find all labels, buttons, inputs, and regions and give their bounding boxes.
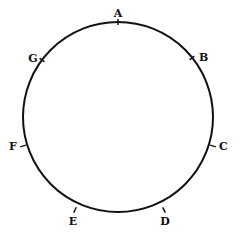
point-tick-c	[210, 145, 216, 147]
point-label-f: F	[9, 140, 17, 153]
circle	[23, 22, 213, 212]
point-label-c: C	[219, 140, 228, 153]
point-label-d: D	[160, 215, 170, 228]
point-tick-e	[74, 207, 77, 212]
point-tick-f	[20, 145, 26, 147]
points-group: ABCDEFG	[9, 7, 228, 228]
point-label-g: G	[28, 52, 37, 65]
circle-diagram: ABCDEFG	[0, 0, 241, 240]
point-label-e: E	[69, 215, 77, 228]
point-label-a: A	[113, 7, 123, 20]
point-tick-d	[163, 207, 166, 212]
point-label-b: B	[199, 51, 208, 64]
